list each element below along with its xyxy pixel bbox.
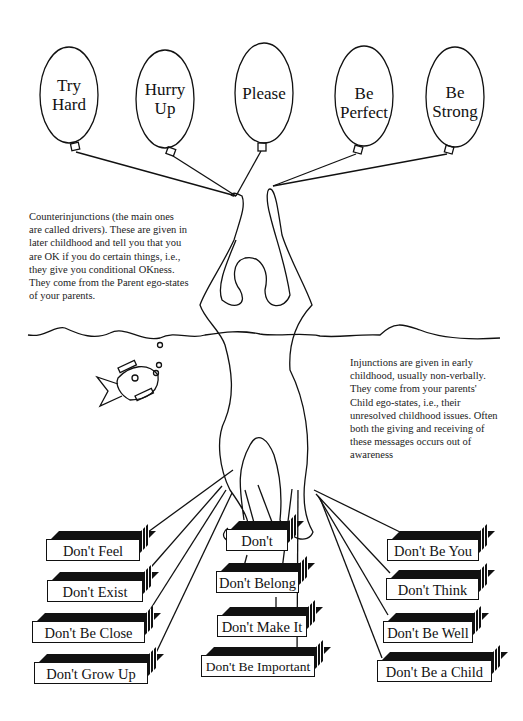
balloon-label-line1: Please [229,84,299,103]
counterinjunctions-note: Counterinjunctions (the main ones are ca… [29,210,189,302]
balloon-label-line1: Try [34,76,104,95]
injunction-dont-be-you: Don't Be You [387,539,479,561]
injunction-dont: Don't [226,529,288,551]
injunction-dont-think: Don't Think [386,578,479,600]
injunction-dont-be-close: Don't Be Close [32,621,145,643]
balloon-try-hard: Try Hard [34,76,104,114]
balloon-label-line2: Perfect [329,103,399,122]
balloon-label-line2: Strong [420,102,490,121]
balloon-be-perfect: Be Perfect [329,84,399,122]
balloon-hurry-up: Hurry Up [130,80,200,118]
injunction-dont-belong: Don't Belong [216,571,299,593]
injunction-dont-be-well: Don't Be Well [383,621,473,643]
injunction-dont-feel: Don't Feel [46,539,140,561]
water-line [28,325,500,339]
balloon-label-line2: Up [130,99,200,118]
injunction-dont-be-important: Don't Be Important [201,655,315,677]
injunction-dont-be-a-child: Don't Be a Child [377,660,492,682]
balloon-label-line1: Be [420,83,490,102]
figure-outline [200,189,313,541]
balloon-be-strong: Be Strong [420,83,490,121]
injunction-dont-exist: Don't Exist [47,580,143,602]
fish-drawing [97,343,163,407]
balloon-shapes [40,43,484,196]
balloon-label-line1: Be [329,84,399,103]
balloon-label-line1: Hurry [130,80,200,99]
injunction-dont-grow-up: Don't Grow Up [34,662,148,684]
balloon-please: Please [229,84,299,103]
balloon-label-line2: Hard [34,95,104,114]
injunctions-note: Injunctions are given in early childhood… [350,356,500,462]
injunction-dont-make-it: Don't Make It [217,615,307,637]
